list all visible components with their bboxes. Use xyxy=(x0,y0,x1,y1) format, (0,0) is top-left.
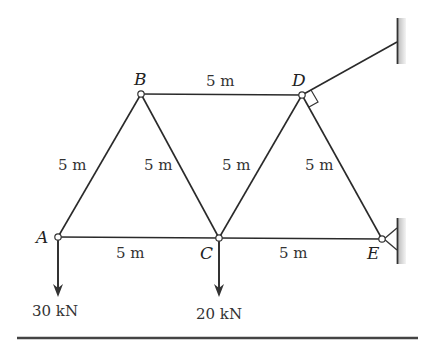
node-label-e: E xyxy=(366,243,380,263)
length-label-bd: 5 m xyxy=(206,72,235,90)
load-arrow-c xyxy=(214,241,224,297)
right-angle-marker xyxy=(309,90,318,107)
joint-e xyxy=(379,236,385,242)
pin-support-icon xyxy=(384,228,397,250)
joint-b xyxy=(138,91,144,97)
truss-diagram: A B C D E 5 m 5 m 5 m 5 m 5 m 5 m 5 m 30… xyxy=(0,0,430,349)
wall-top-right xyxy=(398,18,407,64)
node-label-a: A xyxy=(34,227,48,247)
member-bd xyxy=(141,94,302,95)
joint-a xyxy=(55,234,61,240)
member-ce xyxy=(219,238,382,239)
joint-d xyxy=(299,92,305,98)
load-arrow-a xyxy=(53,240,63,297)
wall-right-support xyxy=(398,218,407,264)
load-label-c: 20 kN xyxy=(196,305,242,323)
length-label-ab: 5 m xyxy=(58,156,87,174)
node-label-d: D xyxy=(291,70,306,90)
joint-c xyxy=(216,235,222,241)
member-ac xyxy=(58,237,219,238)
node-label-c: C xyxy=(200,243,213,263)
length-label-cd: 5 m xyxy=(222,156,251,174)
length-label-bc: 5 m xyxy=(144,156,173,174)
length-label-de: 5 m xyxy=(305,156,334,174)
length-label-ce: 5 m xyxy=(279,244,308,262)
cable-d-wall xyxy=(302,42,397,95)
length-label-ac: 5 m xyxy=(116,244,145,262)
load-label-a: 30 kN xyxy=(32,302,78,320)
node-label-b: B xyxy=(133,69,147,89)
